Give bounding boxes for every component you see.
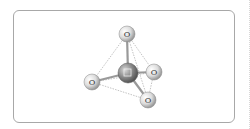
molecule-diagram: O O O O xyxy=(0,0,250,129)
ligand-atom-left: O xyxy=(84,74,100,90)
center-atom xyxy=(118,63,138,83)
svg-text:O: O xyxy=(124,30,131,39)
ligand-atom-right: O xyxy=(146,64,162,80)
ligand-atom-bottom: O xyxy=(140,92,156,108)
svg-text:O: O xyxy=(151,68,158,77)
ligand-atom-top: O xyxy=(119,26,135,42)
svg-text:O: O xyxy=(145,96,152,105)
svg-text:O: O xyxy=(89,78,96,87)
